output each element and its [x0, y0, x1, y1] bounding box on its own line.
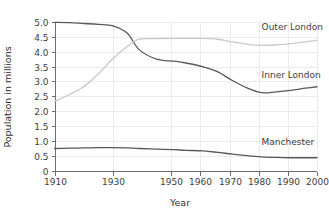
- series-line-inner-london: [55, 22, 318, 93]
- y-axis-title: Population in millions: [2, 46, 13, 147]
- x-tick-label: 1990: [277, 177, 300, 187]
- x-tick-label: 1970: [219, 177, 242, 187]
- series-label-outer-london: Outer London: [262, 22, 323, 32]
- x-tick-label: 2000: [306, 177, 329, 187]
- y-tick-label: 3.5: [34, 63, 48, 73]
- y-tick-label: 2.5: [34, 92, 48, 102]
- series-label-manchester: Manchester: [262, 137, 315, 147]
- tick-marks-group: [52, 23, 318, 176]
- y-tick-label: 5.0: [34, 18, 49, 28]
- x-axis-title: Year: [169, 197, 190, 208]
- population-line-chart: 00.51.01.52.02.53.03.54.04.55.0 19101930…: [0, 0, 329, 211]
- x-tick-label: 1930: [102, 177, 125, 187]
- y-tick-label: 4.0: [34, 48, 49, 58]
- y-tick-label: 2.0: [34, 107, 49, 117]
- x-tick-label: 1910: [44, 177, 67, 187]
- y-tick-label: 0.5: [34, 152, 48, 162]
- y-tick-label: 4.5: [34, 33, 48, 43]
- x-tick-label: 1950: [160, 177, 183, 187]
- y-tick-label: 1.0: [34, 137, 49, 147]
- x-tick-label: 1960: [189, 177, 212, 187]
- y-tick-label: 3.0: [34, 77, 49, 87]
- x-tick-label: 1980: [248, 177, 271, 187]
- y-tick-label: 0: [43, 167, 49, 177]
- chart-canvas: 00.51.01.52.02.53.03.54.04.55.0 19101930…: [0, 0, 329, 211]
- x-tick-labels-group: 19101930195019601970198019902000: [44, 177, 329, 187]
- series-label-inner-london: Inner London: [262, 70, 321, 80]
- y-tick-label: 1.5: [34, 122, 48, 132]
- y-tick-labels-group: 00.51.01.52.02.53.03.54.04.55.0: [34, 18, 49, 177]
